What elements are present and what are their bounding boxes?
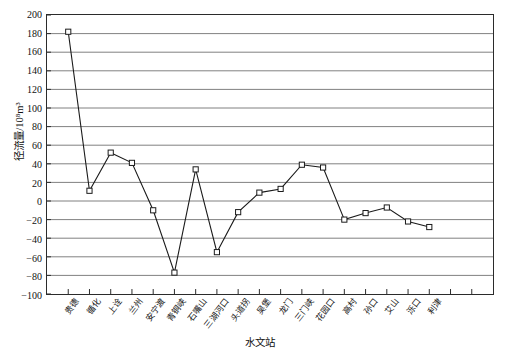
data-point-marker <box>405 219 410 224</box>
data-point-marker <box>87 188 92 193</box>
data-point-marker <box>66 29 71 34</box>
data-point-marker <box>321 165 326 170</box>
data-point-marker <box>172 270 177 275</box>
x-axis-tick-label: 贵德 <box>61 295 81 316</box>
x-axis-title: 水文站 <box>0 334 519 349</box>
data-point-marker <box>214 250 219 255</box>
x-axis-tick-label: 吴堡 <box>253 295 273 316</box>
y-axis-tick-label: −100 <box>21 290 42 301</box>
x-axis-tick-label: 利津 <box>424 295 444 316</box>
data-point-marker <box>151 208 156 213</box>
y-axis-tick-label: 0 <box>37 196 42 207</box>
data-point-marker <box>299 162 304 167</box>
x-axis-tick-label: 孙口 <box>360 295 380 316</box>
x-axis-tick-label: 头道拐 <box>227 295 253 323</box>
x-axis-tick-label: 青铜峡 <box>163 295 189 323</box>
y-axis-tick-label: 200 <box>27 9 42 20</box>
y-axis-tick-label: −60 <box>26 252 42 263</box>
data-point-marker <box>342 217 347 222</box>
y-axis-tick-label: −20 <box>26 215 42 226</box>
y-axis-tick-label: 140 <box>27 65 42 76</box>
y-axis-tick-label: 120 <box>27 83 42 94</box>
data-point-marker <box>108 150 113 155</box>
data-point-marker <box>363 211 368 216</box>
x-axis-tick-label: 循化 <box>83 295 103 316</box>
x-axis-tick-label: 艾山 <box>381 295 401 316</box>
data-point-marker <box>384 205 389 210</box>
y-axis-tick-label: 20 <box>32 177 42 188</box>
y-axis-tick-label: 160 <box>27 46 42 57</box>
data-series <box>47 15 493 294</box>
x-axis-tick-label: 花园口 <box>312 295 338 323</box>
data-point-marker <box>257 190 262 195</box>
x-axis-tick-label: 三门峡 <box>291 295 317 323</box>
y-axis-tick-labels: 200180160140120100806040200−20−40−60−80−… <box>0 14 42 295</box>
y-axis-tick-label: 100 <box>27 102 42 113</box>
data-point-marker <box>193 167 198 172</box>
y-axis-tick-label: 60 <box>32 140 42 151</box>
x-axis-tick-label: 上诠 <box>104 295 124 316</box>
plot-area <box>46 14 494 295</box>
data-point-marker <box>129 160 134 165</box>
data-point-marker <box>236 210 241 215</box>
y-axis-tick-label: −40 <box>26 233 42 244</box>
y-axis-tick-label: −80 <box>26 271 42 282</box>
data-point-marker <box>278 186 283 191</box>
runoff-line-chart: 径流量/10⁸m³ 200180160140120100806040200−20… <box>0 0 519 360</box>
y-axis-tick-label: 40 <box>32 158 42 169</box>
x-axis-tick-label: 安宁渡 <box>141 295 167 323</box>
x-axis-tick-label: 泺口 <box>403 295 423 316</box>
x-axis-tick-label: 高村 <box>339 295 359 316</box>
y-axis-tick-label: 80 <box>32 121 42 132</box>
data-point-marker <box>427 224 432 229</box>
y-axis-tick-label: 180 <box>27 27 42 38</box>
